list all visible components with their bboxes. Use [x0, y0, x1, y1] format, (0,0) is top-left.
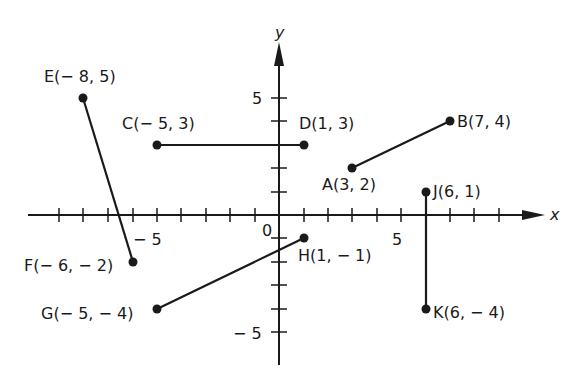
y-tick-label-neg5: − 5: [233, 324, 262, 343]
point-label-K: K(6, − 4): [433, 303, 505, 322]
y-axis-arrow-icon: [274, 42, 284, 66]
point-A: [348, 164, 357, 173]
point-C: [153, 141, 162, 150]
point-label-H: H(1, − 1): [298, 246, 372, 265]
coordinate-plane: x y 0 − 5 5 5 − 5 A(3, 2) B(7, 4) C(− 5,…: [0, 0, 586, 388]
point-label-J: J(6, 1): [432, 182, 481, 201]
point-label-F: F(− 6, − 2): [24, 256, 113, 275]
point-label-E: E(− 8, 5): [44, 67, 116, 86]
point-G: [153, 305, 162, 314]
point-B: [446, 117, 455, 126]
point-F: [129, 258, 138, 267]
point-H: [300, 234, 309, 243]
x-axis-label: x: [549, 205, 560, 224]
point-J: [422, 188, 431, 197]
x-tick-label-neg5: − 5: [133, 230, 162, 249]
origin-label: 0: [262, 221, 272, 240]
point-label-G: G(− 5, − 4): [41, 304, 133, 323]
point-label-A: A(3, 2): [322, 175, 376, 194]
point-label-C: C(− 5, 3): [122, 114, 195, 133]
x-tick-label-5: 5: [392, 230, 402, 249]
point-K: [422, 305, 431, 314]
segment-AB: [352, 121, 450, 168]
segment-GH: [157, 238, 304, 309]
y-axis-label: y: [274, 23, 285, 42]
point-D: [300, 141, 309, 150]
point-E: [79, 94, 88, 103]
point-label-B: B(7, 4): [457, 112, 511, 131]
point-label-D: D(1, 3): [299, 114, 354, 133]
x-axis-arrow-icon: [522, 210, 545, 220]
y-tick-label-5: 5: [252, 89, 262, 108]
